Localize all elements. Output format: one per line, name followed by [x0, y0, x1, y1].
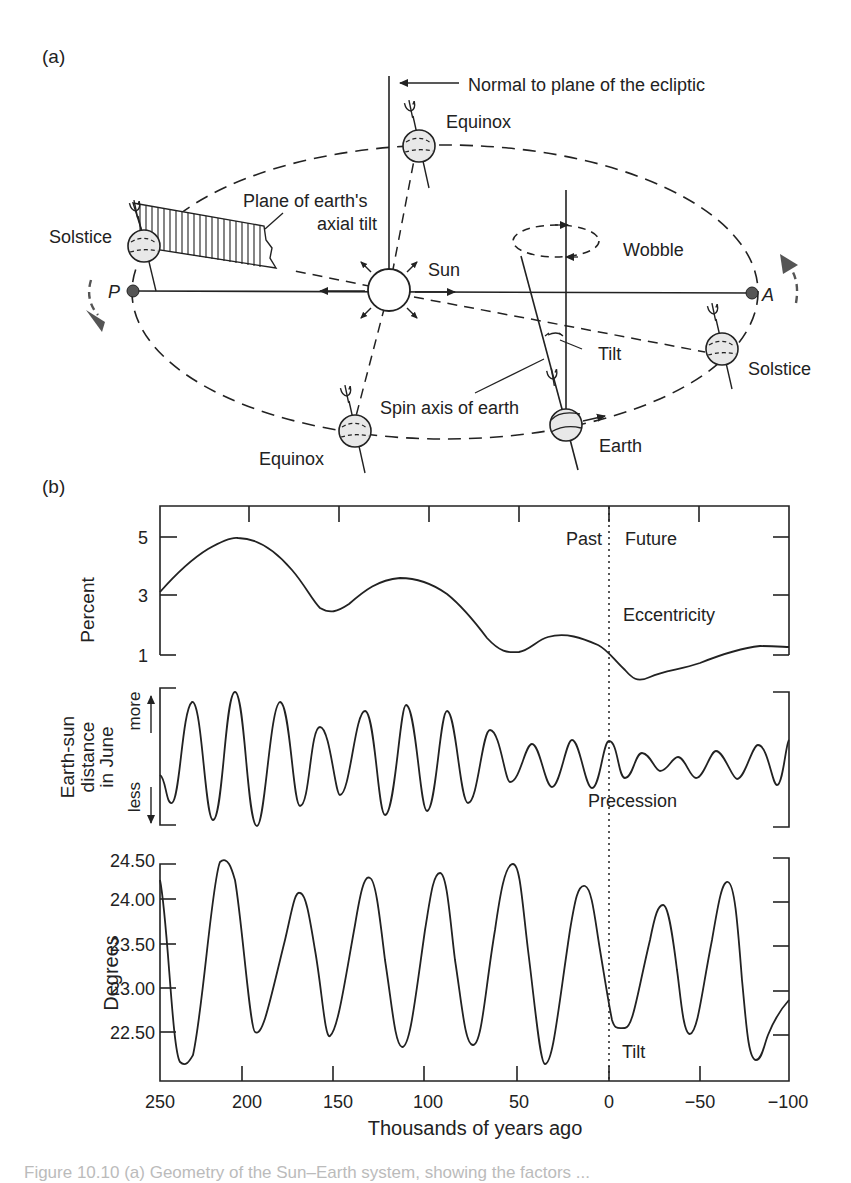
- svg-text:5: 5: [138, 528, 148, 548]
- plane-label-line2: axial tilt: [317, 214, 377, 234]
- svg-text:50: 50: [509, 1092, 529, 1112]
- figure-caption: Figure 10.10 (a) Geometry of the Sun–Ear…: [24, 1163, 590, 1183]
- svg-text:100: 100: [413, 1092, 443, 1112]
- svg-text:22.50: 22.50: [110, 1023, 155, 1043]
- ecc-ylabel: Percent: [77, 577, 98, 643]
- eccentricity-panel: 5 3 1 Percent Past Future Eccentricity: [77, 506, 789, 680]
- prec-ylabel-line1: Earth-sun: [57, 716, 78, 798]
- solstice-right-label: Solstice: [748, 359, 811, 379]
- equinox-bottom-label: Equinox: [259, 449, 324, 469]
- x-axis-label: Thousands of years ago: [368, 1117, 583, 1139]
- orbit-rotation-arrow-left-icon: [86, 310, 105, 332]
- svg-text:−50: −50: [685, 1092, 716, 1112]
- tilt-panel: 24.5024.00 23.5023.00 22.50 Degrees Tilt: [100, 851, 789, 1081]
- wobble-ellipse: [513, 225, 599, 257]
- panel-a: (a) Normal to plane of the ecliptic P A: [42, 46, 811, 473]
- svg-text:150: 150: [323, 1092, 353, 1112]
- prec-more-label: more: [125, 692, 144, 731]
- precession-panel: Precession Earth-sun distance in June mo…: [57, 688, 789, 827]
- x-axis-ticklabels: 250200 150100 500 −50−100: [145, 1092, 808, 1112]
- svg-text:250: 250: [145, 1092, 175, 1112]
- panel-b-label: (b): [42, 476, 65, 497]
- prec-less-label: less: [125, 782, 144, 812]
- solstice-left-label: Solstice: [49, 227, 112, 247]
- panel-b: (b) 5 3 1 Percent Past Future Eccentrici…: [42, 476, 808, 1139]
- tilt-ylabel: Degrees: [100, 935, 122, 1011]
- earth-solstice-right: [706, 302, 738, 389]
- svg-text:0: 0: [604, 1092, 614, 1112]
- aphelion-point: [746, 287, 758, 299]
- prec-ylabel-line3: in June: [96, 726, 117, 787]
- orbit-rotation-arrow-right-icon: [780, 254, 798, 274]
- svg-text:1: 1: [138, 646, 148, 666]
- perihelion-label: P: [108, 282, 120, 302]
- earth-equinox-top: [403, 99, 435, 188]
- svg-text:24.00: 24.00: [110, 890, 155, 910]
- wobble-label: Wobble: [623, 240, 684, 260]
- prec-ylabel-line2: distance: [77, 722, 98, 793]
- spin-axis-label: Spin axis of earth: [380, 398, 519, 418]
- svg-text:24.50: 24.50: [110, 851, 155, 871]
- svg-text:3: 3: [138, 586, 148, 606]
- eccentricity-label: Eccentricity: [623, 605, 715, 625]
- perihelion-point: [127, 285, 139, 297]
- aphelion-label: A: [761, 285, 774, 305]
- tilt-curve: [160, 860, 789, 1064]
- future-label: Future: [625, 529, 677, 549]
- tilt-series-label: Tilt: [622, 1042, 645, 1062]
- plane-label-line1: Plane of earth's: [243, 191, 368, 211]
- precession-label: Precession: [588, 791, 677, 811]
- sun-icon: [361, 262, 417, 318]
- earth-equinox-bottom: [339, 384, 371, 473]
- svg-text:−100: −100: [768, 1092, 809, 1112]
- precession-curve: [160, 692, 789, 826]
- panel-a-label: (a): [42, 46, 65, 67]
- past-label: Past: [566, 529, 602, 549]
- equinox-top-label: Equinox: [446, 112, 511, 132]
- tilt-label: Tilt: [598, 344, 621, 364]
- sun-label: Sun: [428, 260, 460, 280]
- earth-label: Earth: [599, 436, 642, 456]
- svg-text:200: 200: [232, 1092, 262, 1112]
- normal-label: Normal to plane of the ecliptic: [468, 75, 705, 95]
